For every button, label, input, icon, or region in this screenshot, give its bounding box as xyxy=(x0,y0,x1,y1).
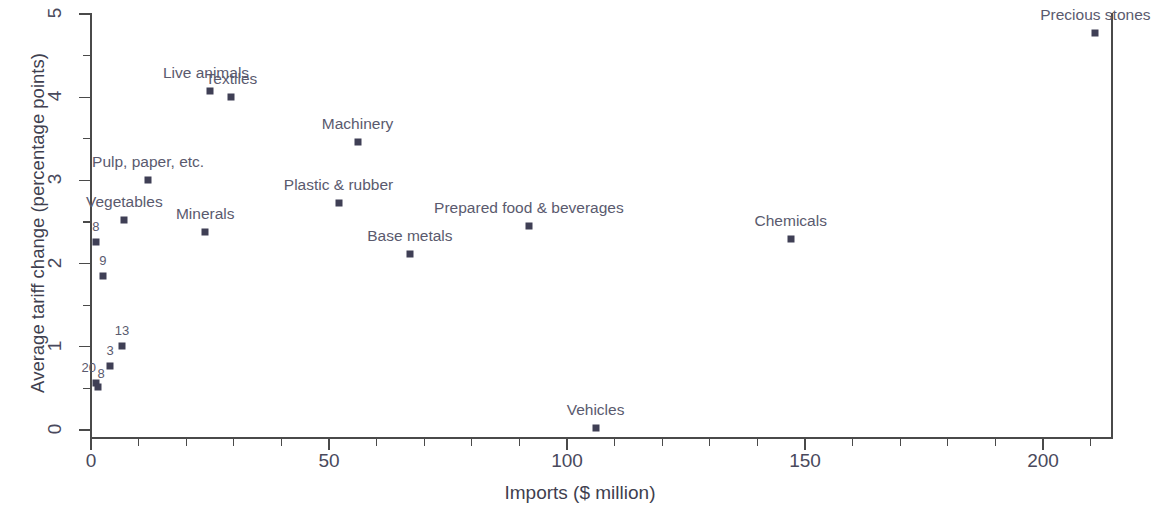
x-axis-tick-label: 200 xyxy=(1008,450,1078,472)
data-point-label: Chemicals xyxy=(755,212,827,230)
scatter-plot-figure: 012345 050100150200 Precious stonesLive … xyxy=(0,0,1160,510)
x-axis-minor-tick xyxy=(900,438,901,446)
x-axis-minor-tick xyxy=(757,438,758,446)
data-point-label: Precious stones xyxy=(1040,6,1150,24)
x-axis-minor-tick xyxy=(519,438,520,446)
x-axis-minor-tick xyxy=(281,438,282,446)
x-axis-minor-tick xyxy=(1090,438,1091,446)
data-point-label: Plastic & rubber xyxy=(284,176,393,194)
data-point-label: 3 xyxy=(106,343,113,358)
y-axis-major-tick xyxy=(79,263,91,264)
data-point-marker xyxy=(207,87,214,94)
x-axis-minor-tick xyxy=(662,438,663,446)
data-point-marker xyxy=(787,236,794,243)
y-axis-major-tick xyxy=(79,13,91,14)
data-point-marker xyxy=(107,362,114,369)
y-axis-major-tick xyxy=(79,346,91,347)
x-axis-major-tick xyxy=(566,438,567,450)
y-axis-minor-tick xyxy=(83,388,91,389)
data-point-marker xyxy=(525,223,532,230)
x-axis-minor-tick xyxy=(376,438,377,446)
data-point-marker xyxy=(228,94,235,101)
x-axis-major-tick xyxy=(90,438,91,450)
x-axis-minor-tick xyxy=(614,438,615,446)
y-axis-major-tick xyxy=(79,97,91,98)
x-axis-minor-tick xyxy=(138,438,139,446)
x-axis-minor-tick xyxy=(995,438,996,446)
data-point-label: 13 xyxy=(115,323,129,338)
x-axis-tick-label: 150 xyxy=(770,450,840,472)
x-axis-tick-label: 50 xyxy=(294,450,364,472)
x-axis-major-tick xyxy=(804,438,805,450)
x-axis-minor-tick xyxy=(709,438,710,446)
x-axis-minor-tick xyxy=(947,438,948,446)
data-point-label: Prepared food & beverages xyxy=(434,199,624,217)
x-axis-major-tick xyxy=(1042,438,1043,450)
x-axis-tick-label: 100 xyxy=(532,450,602,472)
y-axis-minor-tick xyxy=(83,138,91,139)
data-point-marker xyxy=(121,217,128,224)
y-axis-title: Average tariff change (percentage points… xyxy=(27,13,49,433)
data-point-label: 9 xyxy=(99,253,106,268)
data-point-label: 8 xyxy=(92,219,99,234)
y-axis-minor-tick xyxy=(83,221,91,222)
x-axis-minor-tick xyxy=(471,438,472,446)
data-point-marker xyxy=(406,250,413,257)
data-point-marker xyxy=(592,425,599,432)
data-point-label: 20 xyxy=(82,360,96,375)
data-point-marker xyxy=(335,199,342,206)
data-point-label: Pulp, paper, etc. xyxy=(92,153,204,171)
x-axis-minor-tick xyxy=(233,438,234,446)
y-axis-minor-tick xyxy=(83,55,91,56)
data-point-marker xyxy=(145,177,152,184)
data-point-label: Machinery xyxy=(322,115,394,133)
y-axis-minor-tick xyxy=(83,305,91,306)
x-axis-spine xyxy=(90,437,1113,439)
data-point-label: Live animals xyxy=(163,64,249,82)
x-axis-tick-label: 0 xyxy=(56,450,126,472)
x-axis-minor-tick xyxy=(852,438,853,446)
data-point-marker xyxy=(202,228,209,235)
data-point-marker xyxy=(99,273,106,280)
data-point-label: Textiles xyxy=(206,70,258,88)
data-point-label: Base metals xyxy=(367,227,452,245)
data-point-marker xyxy=(118,342,125,349)
data-point-marker xyxy=(92,238,99,245)
y-axis-major-tick xyxy=(79,180,91,181)
y-axis-major-tick xyxy=(79,429,91,430)
x-axis-title: Imports ($ million) xyxy=(0,482,1160,504)
data-point-marker xyxy=(354,139,361,146)
y-axis-spine xyxy=(90,13,92,438)
data-point-label: Vehicles xyxy=(567,401,625,419)
x-axis-minor-tick xyxy=(186,438,187,446)
data-point-label: 8 xyxy=(98,366,105,381)
data-point-label: Vegetables xyxy=(86,193,163,211)
data-point-marker xyxy=(95,383,102,390)
x-axis-minor-tick xyxy=(424,438,425,446)
data-point-label: Minerals xyxy=(176,205,235,223)
x-axis-major-tick xyxy=(328,438,329,450)
data-point-marker xyxy=(1092,30,1099,37)
right-axis-spine xyxy=(1111,13,1113,438)
